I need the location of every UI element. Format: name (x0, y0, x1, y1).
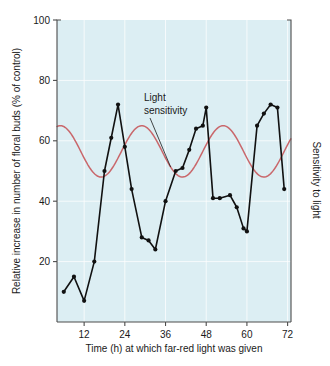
data-point (187, 148, 191, 152)
data-point (201, 124, 205, 128)
data-point (275, 105, 279, 109)
chart-svg: 20406080100 122436486072 Relative increa… (0, 0, 330, 366)
data-point (92, 260, 96, 264)
data-point (109, 136, 113, 140)
data-point (269, 102, 273, 106)
right-axis-title: Sensitivity to light (311, 141, 322, 218)
data-point (180, 166, 184, 170)
y-tick-label: 60 (39, 135, 51, 146)
annotation-light-label: Light (144, 92, 166, 103)
data-point (235, 205, 239, 209)
data-point (140, 235, 144, 239)
data-point (228, 193, 232, 197)
y-tick-label: 100 (33, 15, 50, 26)
data-point (174, 169, 178, 173)
y-tick-label: 20 (39, 256, 51, 267)
data-point (116, 102, 120, 106)
data-point (102, 169, 106, 173)
annotation-sensitivity-label: sensitivity (144, 105, 187, 116)
x-tick-label: 60 (241, 329, 253, 340)
data-point (82, 299, 86, 303)
data-point (62, 290, 66, 294)
y-tick-label: 40 (39, 196, 51, 207)
x-tick-label: 72 (282, 329, 294, 340)
data-point (262, 112, 266, 116)
x-tick-label: 48 (201, 329, 213, 340)
data-point (153, 247, 157, 251)
x-tick-label: 24 (119, 329, 131, 340)
data-point (241, 226, 245, 230)
data-point (123, 145, 127, 149)
data-point (130, 187, 134, 191)
data-point (146, 238, 150, 242)
data-point (218, 196, 222, 200)
x-tick-label: 12 (79, 329, 91, 340)
y-tick-label: 80 (39, 75, 51, 86)
data-point (245, 229, 249, 233)
data-point (282, 187, 286, 191)
data-point (194, 127, 198, 131)
data-point (163, 199, 167, 203)
data-point (204, 105, 208, 109)
y-axis-title: Relative increase in number of floral bu… (11, 48, 22, 294)
data-point (211, 196, 215, 200)
data-point (255, 124, 259, 128)
x-tick-label: 36 (160, 329, 172, 340)
data-point (72, 275, 76, 279)
figure-container: 20406080100 122436486072 Relative increa… (0, 0, 330, 366)
x-axis-title: Time (h) at which far-red light was give… (86, 343, 263, 354)
